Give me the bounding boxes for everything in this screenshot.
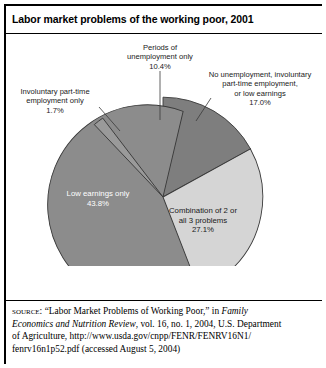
callout-no-unemployment-involuntary-part-time-or-low-earnings: No unemployment, involuntary part-time e…	[196, 70, 324, 108]
slice-label-combination-of-2-or-all-3-problems: Combination of 2 or all 3 problems 27.1%	[150, 206, 256, 235]
source-line-4: fenrv16n1p52.pdf (accessed August 5, 200…	[12, 343, 314, 356]
source-line-2: Economics and Nutrition Review, vol. 16,…	[12, 318, 314, 331]
source-line-1: source: “Labor Market Problems of Workin…	[12, 305, 314, 318]
source-note: source: “Labor Market Problems of Workin…	[12, 305, 314, 355]
figure-title: Labor market problems of the working poo…	[12, 9, 314, 29]
callout-involuntary-part-time-employment-only: Involuntary part-time employment only 1.…	[2, 87, 108, 115]
source-italic-2: Economics and Nutrition Review	[12, 319, 136, 329]
frame-top-border	[4, 4, 322, 6]
pie-chart: Periods of unemployment only 10.4% No un…	[0, 34, 326, 266]
figure-container: Labor market problems of the working poo…	[0, 0, 326, 368]
callout-periods-of-unemployment-only: Periods of unemployment only 10.4%	[108, 43, 212, 71]
source-italic-1: Family	[221, 306, 248, 316]
source-line-3: of Agriculture, http://www.usda.gov/cnpp…	[12, 330, 314, 343]
source-label: source:	[12, 305, 42, 316]
source-rest: , vol. 16, no. 1, 2004, U.S. Department	[136, 319, 282, 329]
source-divider	[6, 300, 322, 301]
source-quote: “Labor Market Problems of Working Poor,”…	[45, 306, 222, 316]
slice-label-low-earnings-only: Low earnings only 43.8%	[44, 189, 152, 208]
